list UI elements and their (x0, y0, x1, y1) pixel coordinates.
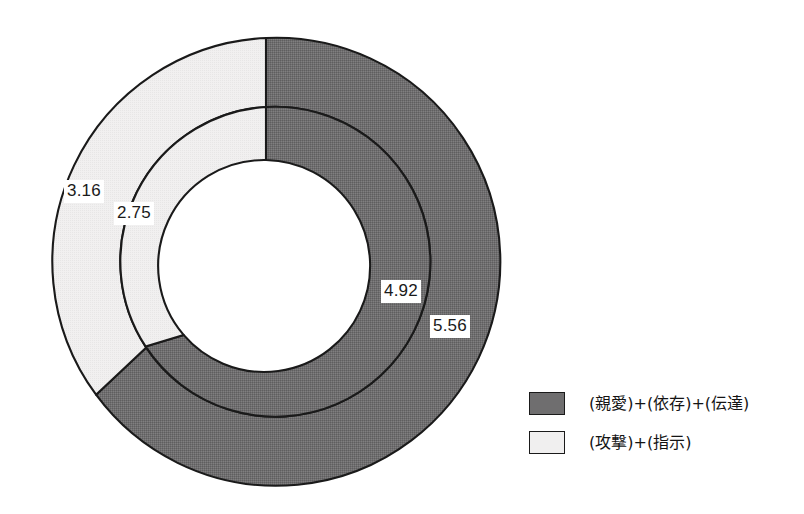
chart-legend: (親愛)+(依存)+(伝達) (攻撃)+(指示) (529, 384, 779, 462)
legend-swatch-dark-icon (529, 392, 565, 415)
legend-label-dark: (親愛)+(依存)+(伝達) (589, 394, 749, 414)
inner-ring-dark-value-label: 4.92 (381, 280, 421, 303)
legend-label-light: (攻撃)+(指示) (589, 433, 691, 453)
legend-item-dark[interactable]: (親愛)+(依存)+(伝達) (529, 384, 779, 423)
outer-ring-light-value-label: 3.16 (64, 180, 104, 203)
outer-ring-dark-value-label: 5.56 (430, 315, 470, 338)
legend-item-light[interactable]: (攻撃)+(指示) (529, 423, 779, 462)
legend-swatch-light-icon (529, 431, 565, 454)
inner-ring-light-value-label: 2.75 (114, 202, 154, 225)
chart-canvas: 3.16 2.75 4.92 5.56 (親愛)+(依存)+(伝達) (攻撃)+… (0, 0, 804, 514)
